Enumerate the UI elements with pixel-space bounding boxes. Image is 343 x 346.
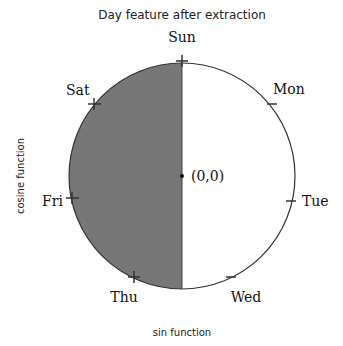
chart-title: Day feature after extraction — [98, 8, 266, 22]
label-sat: Sat — [66, 82, 90, 98]
label-fri: Fri — [42, 193, 63, 209]
x-axis-label: sin function — [153, 327, 211, 338]
origin-label: (0,0) — [191, 168, 224, 184]
label-sun: Sun — [168, 29, 196, 45]
label-thu: Thu — [110, 289, 137, 305]
origin-point — [180, 174, 184, 178]
day-feature-diagram: Day feature after extraction (0,0) Sun M… — [0, 0, 343, 346]
label-mon: Mon — [273, 81, 305, 97]
y-axis-label: cosine function — [15, 138, 26, 214]
label-wed: Wed — [231, 289, 262, 305]
label-tue: Tue — [302, 193, 329, 209]
